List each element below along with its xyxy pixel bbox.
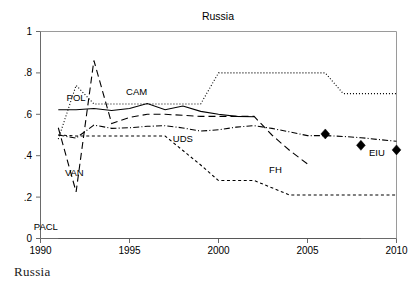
series-label-pacl: PACL — [34, 221, 58, 232]
series-label-eiu: EIU — [369, 147, 385, 158]
y-tick-label-02: .2 — [24, 192, 33, 203]
plot-frame — [41, 32, 397, 239]
series-label-van: VAN — [65, 167, 84, 178]
y-tick-label-1: 1 — [26, 26, 32, 37]
series-label-pol: POL — [67, 92, 86, 103]
series-layer — [58, 60, 401, 238]
data-point-marker — [357, 140, 366, 150]
series-label-fh: FH — [269, 164, 282, 175]
series-line-fh — [58, 135, 396, 195]
data-point-marker — [392, 145, 401, 155]
x-tick-label-2010: 2010 — [385, 245, 408, 256]
chart-title: Russia — [202, 10, 234, 22]
x-tick-label-1990: 1990 — [29, 245, 52, 256]
x-tick-label-1995: 1995 — [118, 245, 141, 256]
y-tick-label-08: .8 — [24, 67, 33, 78]
data-point-marker — [321, 129, 330, 139]
y-axis-ticks: 0 .2 .4 .6 .8 1 — [24, 26, 41, 244]
y-tick-label-06: .6 — [24, 109, 33, 120]
x-tick-label-2005: 2005 — [296, 245, 319, 256]
series-label-cam: CAM — [126, 86, 147, 97]
figure-caption: Russia — [14, 264, 50, 280]
series-label-uds: UDS — [173, 133, 193, 144]
series-line-uds — [58, 125, 396, 141]
y-tick-label-04: .4 — [24, 150, 33, 161]
y-tick-label-0: 0 — [26, 233, 32, 244]
chart-figure: 0 .2 .4 .6 .8 1 1990 1995 2000 2005 2010… — [0, 0, 415, 295]
series-label-layer: POLVANCAMUDSFHPACLEIU — [34, 86, 385, 233]
series-line-pol — [58, 73, 396, 139]
x-tick-label-2000: 2000 — [207, 245, 230, 256]
x-axis-ticks: 1990 1995 2000 2005 2010 — [29, 239, 408, 257]
chart-svg: 0 .2 .4 .6 .8 1 1990 1995 2000 2005 2010… — [0, 0, 415, 295]
